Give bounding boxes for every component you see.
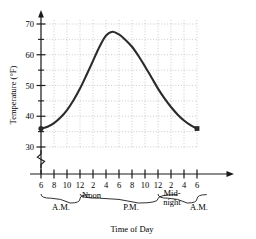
y-tick-label: 40	[26, 111, 35, 121]
x-tick-label: 10	[63, 180, 72, 190]
brace-label-am-first: A.M.	[52, 202, 70, 212]
temperature-time-chart: 3040506070 68101224681012246 Temperature…	[0, 0, 256, 239]
x-tick-label: 6	[39, 180, 43, 190]
x-axis-title: Time of Day	[110, 224, 154, 234]
y-tick-label: 50	[26, 81, 35, 91]
y-tick-label: 70	[26, 19, 35, 29]
brace-label-pm: P.M.	[123, 202, 139, 212]
x-tick-label: 10	[141, 180, 150, 190]
x-tick-label: 6	[117, 180, 121, 190]
x-tick-label: 8	[52, 180, 56, 190]
x-tick-label: 12	[76, 180, 85, 190]
y-tick-label: 30	[26, 142, 35, 152]
noon-annotation: Noon	[82, 190, 102, 200]
y-axis-title: Temperature (°F)	[8, 65, 18, 124]
midnight-annotation-line2: night	[163, 197, 181, 207]
x-tick-label: 12	[154, 180, 163, 190]
endpoint-marker-square	[195, 126, 200, 131]
brace-label-am-last: A.M.	[190, 202, 208, 212]
y-tick-label: 60	[26, 50, 35, 60]
chart-canvas: 3040506070 68101224681012246 Temperature…	[0, 0, 256, 239]
x-tick-label: 6	[195, 180, 199, 190]
x-tick-label: 8	[130, 180, 134, 190]
endpoint-marker-dot	[38, 126, 43, 131]
x-tick-label: 2	[91, 180, 95, 190]
